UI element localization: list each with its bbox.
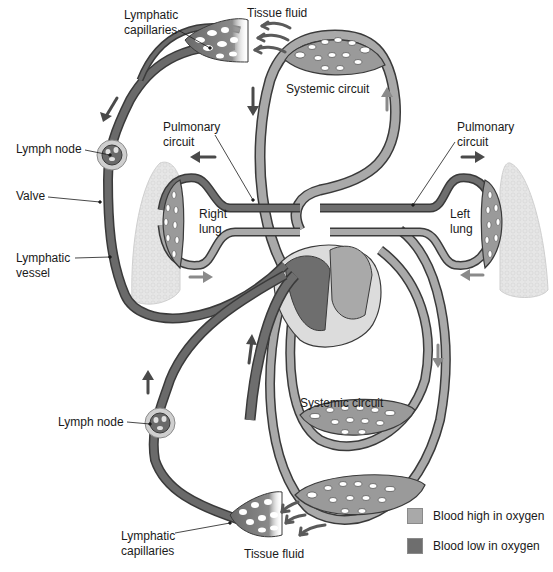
label-left-lung: Left lung xyxy=(450,207,473,237)
left-lung-tissue xyxy=(500,163,548,298)
label-lymph-node-top: Lymph node xyxy=(16,142,82,157)
swatch-high-oxygen xyxy=(407,508,423,524)
legend-label-low-oxygen: Blood low in oxygen xyxy=(433,539,540,553)
legend: Blood high in oxygen Blood low in oxygen xyxy=(407,507,544,567)
label-tissue-fluid-top: Tissue fluid xyxy=(247,6,307,21)
label-lymph-node-bottom: Lymph node xyxy=(58,415,124,430)
label-pulmonary-circuit-right: Pulmonary circuit xyxy=(457,120,514,150)
label-right-lung: Right lung xyxy=(199,207,227,237)
label-pulmonary-circuit-left: Pulmonary circuit xyxy=(163,120,220,150)
label-valve: Valve xyxy=(16,189,45,204)
legend-label-high-oxygen: Blood high in oxygen xyxy=(433,509,544,523)
legend-item-low-oxygen: Blood low in oxygen xyxy=(407,537,544,554)
label-lymphatic-vessel: Lymphatic vessel xyxy=(16,251,70,281)
circulation-diagram xyxy=(0,0,553,572)
label-tissue-fluid-bottom: Tissue fluid xyxy=(244,547,304,562)
swatch-low-oxygen xyxy=(407,538,423,554)
label-lymphatic-capillaries-top: Lymphatic capillaries xyxy=(124,8,178,38)
label-systemic-circuit-bottom: Systemic circuit xyxy=(300,396,383,411)
legend-item-high-oxygen: Blood high in oxygen xyxy=(407,507,544,524)
label-systemic-circuit-top: Systemic circuit xyxy=(286,82,369,97)
label-lymphatic-capillaries-bottom: Lymphatic capillaries xyxy=(121,529,175,559)
